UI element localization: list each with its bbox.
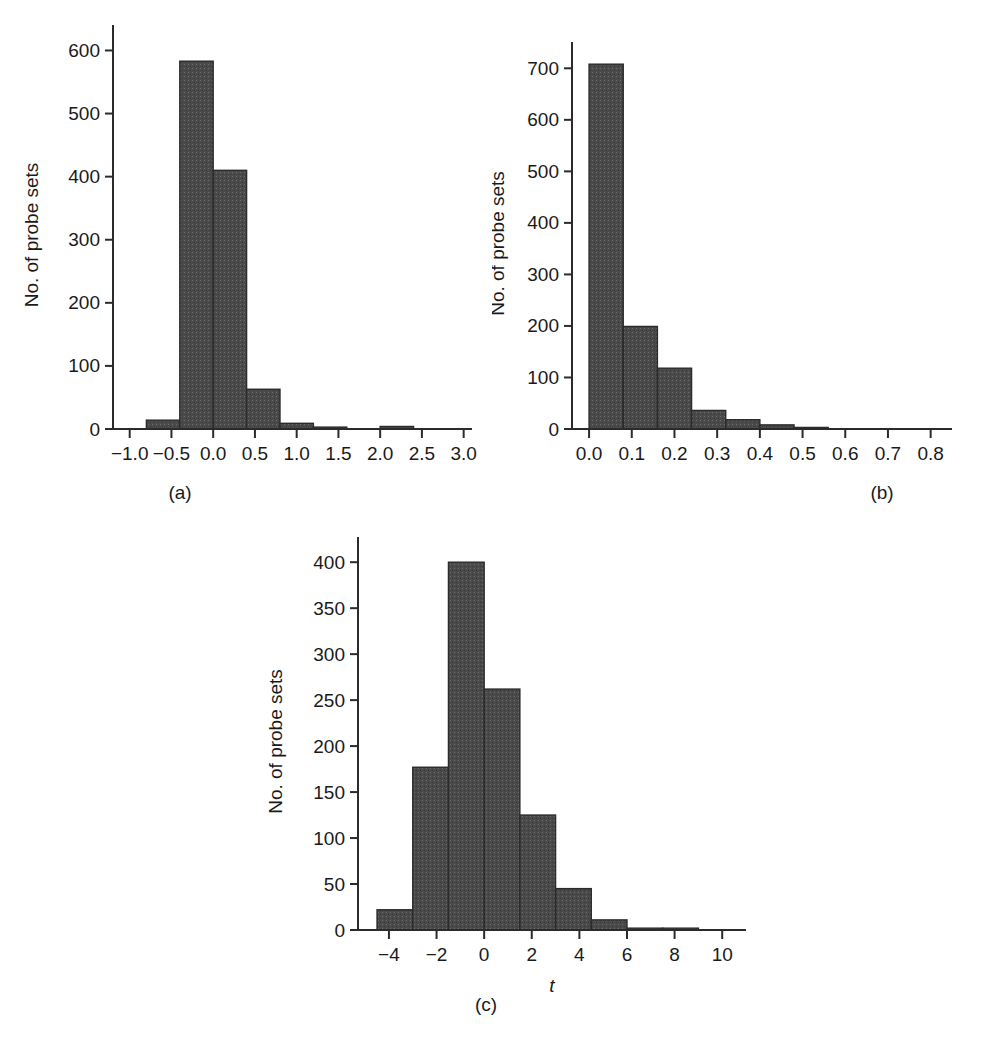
x-tick-label: −0.5	[153, 443, 191, 464]
bar	[247, 389, 280, 429]
bar	[448, 562, 484, 930]
bar	[180, 61, 213, 429]
histogram-c: 050100150200250300350400−4−20246810No. o…	[246, 524, 766, 994]
x-tick-label: 0.1	[619, 443, 645, 464]
histogram-b: 01002003004005006007000.00.10.20.30.40.5…	[492, 0, 984, 470]
bar	[146, 420, 179, 429]
x-ticks: 0.00.10.20.30.40.50.60.70.8	[576, 429, 944, 464]
bar	[726, 420, 760, 429]
y-tick-label: 300	[68, 229, 100, 250]
y-tick-label: 300	[313, 644, 345, 665]
x-tick-label: 8	[669, 944, 680, 965]
y-tick-label: 600	[527, 109, 559, 130]
histogram-a: 0100200300400500600−1.0−0.50.00.51.01.52…	[0, 0, 492, 470]
x-tick-label: 1.5	[325, 443, 351, 464]
y-tick-label: 500	[68, 103, 100, 124]
y-tick-label: 250	[313, 690, 345, 711]
y-tick-label: 100	[527, 367, 559, 388]
x-tick-label: 4	[574, 944, 585, 965]
panel-a-caption: (a)	[0, 482, 360, 504]
y-tick-label: 0	[548, 419, 559, 440]
x-ticks: −4−20246810	[378, 930, 733, 965]
x-tick-label: 0.2	[661, 443, 687, 464]
y-tick-label: 400	[68, 166, 100, 187]
y-tick-label: 200	[313, 736, 345, 757]
x-tick-label: 0.8	[917, 443, 943, 464]
bar	[413, 767, 449, 930]
bars-group	[589, 64, 828, 429]
y-axis-title: No. of probe sets	[265, 669, 286, 814]
y-axis-title: No. of probe sets	[492, 171, 508, 316]
y-ticks: 050100150200250300350400	[313, 552, 358, 941]
x-ticks: −1.0−0.50.00.51.01.52.02.53.0	[111, 429, 477, 464]
bars-group	[146, 61, 413, 429]
x-tick-label: −4	[378, 944, 400, 965]
x-tick-label: 0.3	[704, 443, 730, 464]
x-tick-label: 10	[712, 944, 733, 965]
y-tick-label: 350	[313, 598, 345, 619]
bar	[692, 410, 726, 429]
y-tick-label: 400	[313, 552, 345, 573]
panel-a: 0100200300400500600−1.0−0.50.00.51.01.52…	[0, 0, 492, 524]
y-tick-label: 400	[527, 212, 559, 233]
bar	[657, 368, 691, 429]
y-tick-label: 300	[527, 264, 559, 285]
y-ticks: 0100200300400500600	[68, 40, 113, 440]
y-axis-title: No. of probe sets	[21, 163, 42, 308]
x-axis-title: t	[549, 975, 555, 994]
y-tick-label: 0	[89, 419, 100, 440]
panel-c-caption: (c)	[396, 994, 576, 1016]
y-tick-label: 50	[324, 874, 345, 895]
bar	[377, 910, 413, 930]
y-tick-label: 0	[334, 920, 345, 941]
bar	[556, 889, 592, 930]
x-tick-label: 0.5	[789, 443, 815, 464]
y-tick-label: 600	[68, 40, 100, 61]
bar	[484, 689, 520, 930]
x-tick-label: 1.0	[283, 443, 309, 464]
bars-group	[377, 562, 698, 930]
x-tick-label: 2.5	[409, 443, 435, 464]
bar	[520, 815, 556, 930]
y-tick-label: 200	[527, 315, 559, 336]
x-tick-label: −2	[426, 944, 448, 965]
x-tick-label: 0	[479, 944, 490, 965]
x-tick-label: −1.0	[111, 443, 149, 464]
panel-b: 01002003004005006007000.00.10.20.30.40.5…	[492, 0, 984, 524]
x-tick-label: 0.0	[576, 443, 602, 464]
bar	[591, 920, 627, 930]
bar	[623, 326, 657, 429]
x-tick-label: 0.0	[200, 443, 226, 464]
x-tick-label: 6	[622, 944, 633, 965]
y-tick-label: 100	[313, 828, 345, 849]
y-tick-label: 700	[527, 58, 559, 79]
y-tick-label: 150	[313, 782, 345, 803]
y-tick-label: 100	[68, 355, 100, 376]
y-tick-label: 200	[68, 292, 100, 313]
x-tick-label: 2.0	[367, 443, 393, 464]
y-tick-label: 500	[527, 161, 559, 182]
x-tick-label: 0.5	[242, 443, 268, 464]
x-tick-label: 0.4	[747, 443, 774, 464]
y-ticks: 0100200300400500600700	[527, 58, 572, 440]
panel-b-caption: (b)	[792, 482, 972, 504]
panel-c: 050100150200250300350400−4−20246810No. o…	[246, 524, 766, 1048]
x-tick-label: 0.7	[875, 443, 901, 464]
x-tick-label: 0.6	[832, 443, 858, 464]
x-tick-label: 3.0	[450, 443, 476, 464]
bar	[213, 170, 246, 429]
bar	[589, 64, 623, 429]
x-tick-label: 2	[526, 944, 537, 965]
